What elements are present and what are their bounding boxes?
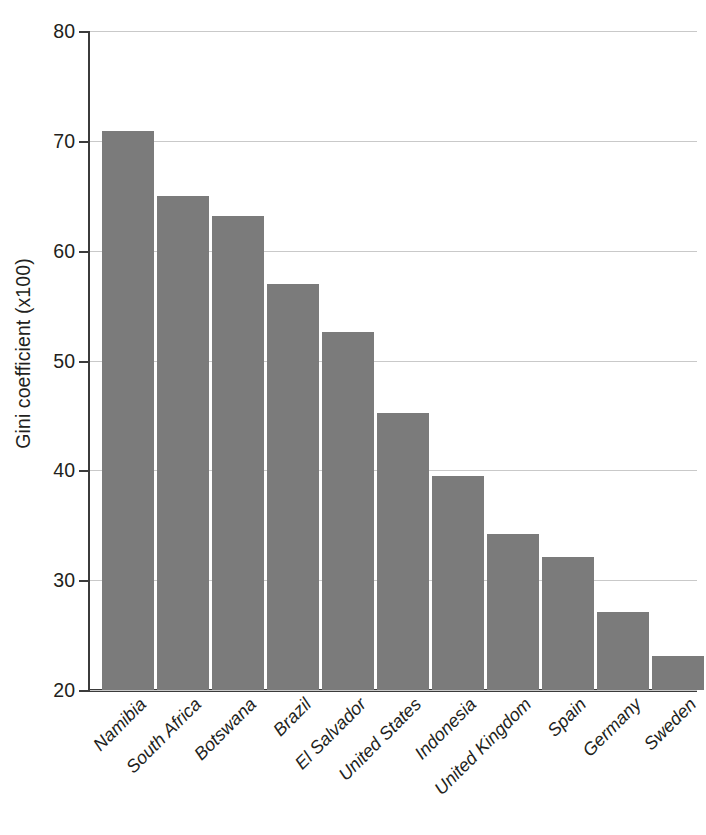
x-axis-tick-label: Spain <box>543 694 590 741</box>
y-axis-tick-label: 40 <box>53 459 75 482</box>
bar <box>102 131 155 690</box>
bar <box>212 216 265 690</box>
plot-area: 80706050403020 <box>88 31 697 690</box>
bar <box>322 332 375 690</box>
y-axis-tick-label: 30 <box>53 569 75 592</box>
x-axis-tick-labels: NamibiaSouth AfricaBotswanaBrazilEl Salv… <box>88 694 697 835</box>
gridline <box>90 690 697 691</box>
x-axis-tick-label: United Kingdom <box>430 694 535 799</box>
y-axis-tick-label: 70 <box>53 129 75 152</box>
bar <box>542 557 595 690</box>
bar <box>487 534 540 690</box>
bars-layer <box>88 31 697 690</box>
bar <box>597 612 650 690</box>
y-axis-tick-label: 20 <box>53 679 75 702</box>
bar <box>377 413 430 690</box>
y-axis-tick-mark <box>79 690 89 692</box>
y-axis-tick-label: 50 <box>53 349 75 372</box>
x-axis-tick-label: Brazil <box>269 694 316 741</box>
y-axis-title: Gini coefficient (x100) <box>12 214 35 494</box>
gini-coefficient-bar-chart: Gini coefficient (x100) 80706050403020 N… <box>0 0 706 835</box>
bar <box>157 196 210 690</box>
bar <box>432 476 485 690</box>
x-axis-tick-label: Germany <box>578 694 645 761</box>
x-axis-tick-label: Sweden <box>640 694 701 755</box>
y-axis-tick-label: 60 <box>53 239 75 262</box>
bar <box>652 656 705 690</box>
y-axis-tick-label: 80 <box>53 20 75 43</box>
bar <box>267 284 320 690</box>
